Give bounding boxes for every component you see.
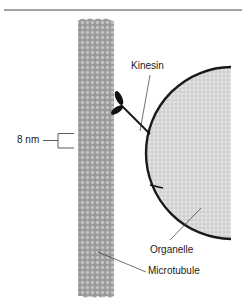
kinesin-leader-line: [140, 75, 150, 131]
scale-label: 8 nm: [17, 134, 39, 146]
diagram-graphic: [0, 0, 246, 308]
organelle-label: Organelle: [150, 244, 193, 256]
scale-bracket: [43, 134, 74, 149]
microtubule-label: Microtubule: [148, 265, 200, 277]
kinesin-transport-diagram: Kinesin 8 nm Organelle Microtubule: [0, 0, 246, 308]
kinesin-label: Kinesin: [131, 60, 164, 72]
microtubule: [78, 19, 114, 298]
